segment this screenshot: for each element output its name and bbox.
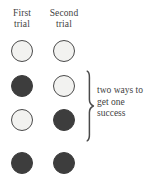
annotation-line-2: get one bbox=[97, 97, 158, 109]
column-header-second-trial-line1: Second bbox=[36, 8, 92, 19]
outcome-circle-row1-second-trial bbox=[53, 40, 75, 62]
outcome-circle-row3-first-trial bbox=[11, 109, 33, 131]
outcome-circle-row4-second-trial bbox=[53, 152, 75, 174]
annotation-two-ways-to-get-one-success: two ways to get one success bbox=[97, 85, 158, 120]
outcome-circle-row2-first-trial bbox=[11, 75, 33, 97]
column-header-second-trial: Second trial bbox=[36, 8, 92, 30]
curly-brace-icon bbox=[84, 70, 96, 142]
outcome-circle-row2-second-trial bbox=[53, 75, 75, 97]
outcome-circle-row1-first-trial bbox=[11, 40, 33, 62]
column-header-second-trial-line2: trial bbox=[36, 19, 92, 30]
annotation-line-3: success bbox=[97, 108, 158, 120]
annotation-line-1: two ways to bbox=[97, 85, 158, 97]
outcome-circle-row3-second-trial bbox=[53, 109, 75, 131]
outcome-circle-row4-first-trial bbox=[11, 152, 33, 174]
two-trial-outcome-diagram: First trial Second trial two ways to get… bbox=[0, 0, 158, 181]
